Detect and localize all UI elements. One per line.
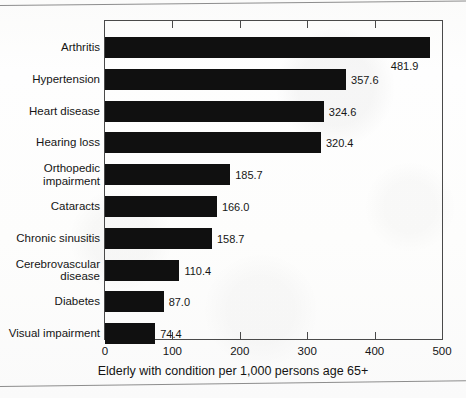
- bar-row: 166.0: [105, 196, 442, 217]
- bar-row: 110.4: [105, 260, 442, 281]
- bar-row: 324.6: [105, 101, 442, 122]
- bar-value-label: 185.7: [235, 170, 263, 181]
- x-tick-label-500: 500: [432, 345, 451, 358]
- bar-row: 320.4: [105, 132, 442, 153]
- bar-series: 481.9357.6324.6320.4185.7166.0158.7110.4…: [105, 21, 442, 339]
- category-label-6: Cataracts: [0, 200, 100, 213]
- category-label-4: Hearing loss: [0, 136, 100, 149]
- bar-value-label: 87.0: [169, 297, 190, 308]
- category-label-1: Arthritis: [0, 41, 100, 54]
- x-axis-caption: Elderly with condition per 1,000 persons…: [0, 364, 466, 379]
- bar-row: 357.6: [105, 69, 442, 90]
- bar-9: [105, 291, 164, 312]
- x-tick-label-100: 100: [163, 345, 182, 358]
- x-tick-label-200: 200: [230, 345, 249, 358]
- bar-4: [105, 132, 321, 153]
- category-label-2: Hypertension: [0, 73, 100, 86]
- bar-3: [105, 101, 324, 122]
- bar-value-label: 166.0: [222, 202, 250, 213]
- bar-row: 87.0: [105, 291, 442, 312]
- bar-value-label: 320.4: [326, 138, 354, 149]
- bar-value-label: 110.4: [184, 266, 211, 277]
- bar-row: 185.7: [105, 164, 442, 185]
- bar-value-label: 357.6: [351, 75, 379, 86]
- bar-8: [105, 260, 179, 281]
- bar-2: [105, 69, 346, 90]
- x-tick-label-0: 0: [102, 345, 108, 358]
- category-axis-labels: ArthritisHypertensionHeart diseaseHearin…: [0, 21, 100, 339]
- bar-10: [105, 323, 155, 344]
- category-label-9: Diabetes: [0, 295, 100, 308]
- bar-row: 158.7: [105, 228, 442, 249]
- x-tick-label-400: 400: [365, 345, 384, 358]
- category-label-10: Visual impairment: [0, 327, 100, 340]
- bar-7: [105, 228, 212, 249]
- bar-value-label: 74.4: [160, 329, 181, 340]
- bar-5: [105, 164, 230, 185]
- bar-6: [105, 196, 217, 217]
- category-label-8: Cerebrovascular disease: [0, 258, 100, 283]
- bar-1: [105, 37, 430, 58]
- category-label-5: Orthopedic impairment: [0, 162, 100, 187]
- bar-row: 74.4: [105, 323, 442, 344]
- bar-row: 481.9: [105, 37, 442, 58]
- x-tick-label-300: 300: [298, 345, 317, 358]
- bar-value-label: 324.6: [329, 107, 357, 118]
- category-label-3: Heart disease: [0, 105, 100, 118]
- horizontal-bar-chart: ArthritisHypertensionHeart diseaseHearin…: [0, 0, 466, 398]
- bar-value-label: 158.7: [217, 234, 245, 245]
- value-axis-tick-labels: 0100200300400500: [0, 345, 466, 361]
- category-label-7: Chronic sinusitis: [0, 232, 100, 245]
